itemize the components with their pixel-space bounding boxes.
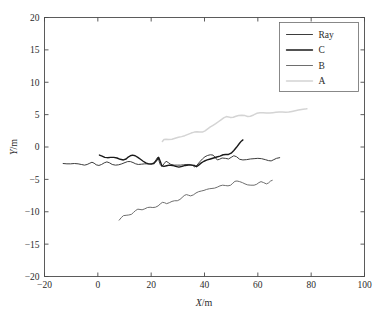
y-tick-label: 10 xyxy=(30,78,40,88)
legend-label-ray: Ray xyxy=(319,30,335,40)
x-tick-label: 20 xyxy=(146,280,156,290)
y-tick-label: 0 xyxy=(35,142,40,152)
x-tick-label: 60 xyxy=(253,280,263,290)
y-tick-label: 20 xyxy=(30,13,40,23)
y-tick-label: −20 xyxy=(25,272,40,282)
y-tick-label: −5 xyxy=(29,175,39,185)
y-tick-label: 5 xyxy=(35,110,40,120)
y-axis-title: Y/m xyxy=(8,139,19,155)
chart-figure: −20020406080100−20−15−10−505101520 RayCB… xyxy=(0,0,389,322)
y-tick-label: −15 xyxy=(25,240,40,250)
x-tick-label: 0 xyxy=(95,280,100,290)
y-tick-label: 15 xyxy=(30,45,40,55)
y-tick-label: −10 xyxy=(25,207,40,217)
chart-legend[interactable]: RayCBA xyxy=(280,23,359,92)
x-tick-label: 40 xyxy=(200,280,210,290)
x-axis-title: X/m xyxy=(195,297,213,308)
line-chart: −20020406080100−20−15−10−505101520 RayCB… xyxy=(0,0,389,322)
legend-label-a: A xyxy=(319,76,326,86)
legend-label-c: C xyxy=(319,45,325,55)
x-tick-label: 100 xyxy=(357,280,372,290)
x-tick-label: 80 xyxy=(306,280,316,290)
legend-label-b: B xyxy=(319,61,325,71)
